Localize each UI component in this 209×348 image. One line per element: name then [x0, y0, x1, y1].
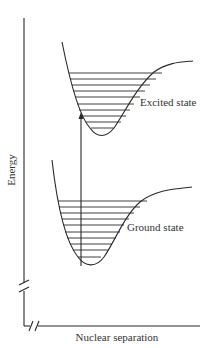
x-axis — [24, 321, 200, 331]
excited-state-label: Excited state — [140, 96, 197, 108]
y-axis-label: Energy — [5, 154, 17, 186]
y-axis — [19, 18, 29, 326]
transition-arrow — [79, 112, 84, 266]
x-axis-label: Nuclear separation — [76, 331, 159, 343]
ground-state-curve — [52, 160, 192, 265]
ground-state-label: Ground state — [127, 221, 184, 233]
potential-energy-diagram: Excited state Ground state Energy Nuclea… — [0, 0, 209, 348]
excited-state-curve — [62, 42, 193, 136]
